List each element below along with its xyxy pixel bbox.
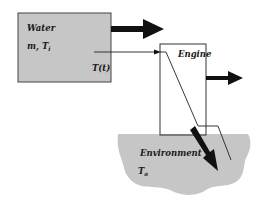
diagram-svg: Water m, Ti T(t) Engine Environment Ta [0, 0, 261, 197]
work-output-arrow-icon [206, 71, 243, 85]
engine-title: Engine [177, 49, 212, 59]
water-temp-label: T(t) [92, 63, 110, 73]
environment-title: Environment [139, 148, 202, 158]
water-title: Water [27, 23, 56, 33]
environment-temp-sub: a [144, 170, 148, 177]
environment-reservoir [118, 134, 251, 195]
diagram-canvas: Water m, Ti T(t) Engine Environment Ta [0, 0, 261, 197]
water-params-main: m, T [27, 41, 49, 52]
water-params: m, Ti [27, 41, 51, 52]
heat-loss-arrow-icon [111, 19, 164, 39]
